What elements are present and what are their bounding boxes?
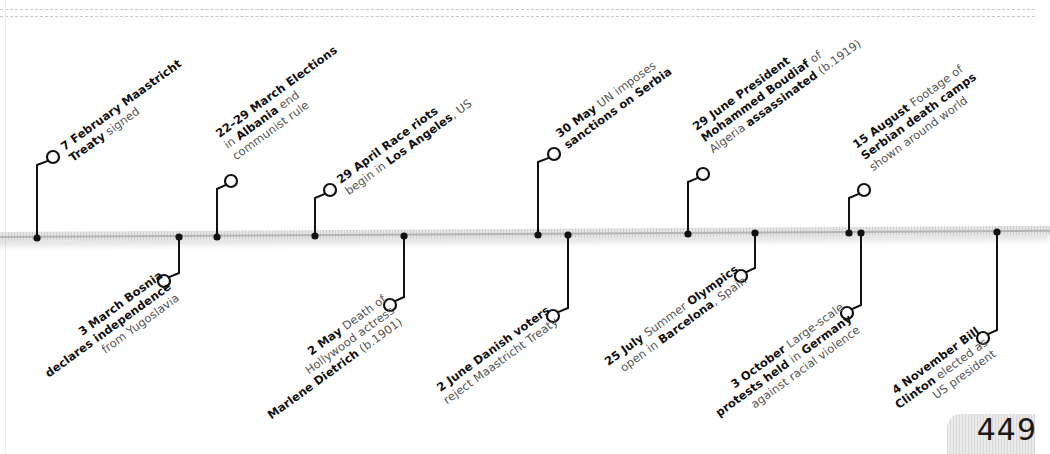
event-connector-may2 bbox=[384, 232, 408, 311]
event-marker-icon bbox=[858, 184, 870, 196]
event-connector-mar22 bbox=[213, 175, 237, 241]
timeline-dot bbox=[857, 229, 864, 236]
event-marker-icon bbox=[548, 148, 560, 160]
timeline-dot bbox=[845, 229, 852, 236]
event-connector-nov4 bbox=[977, 228, 1001, 344]
page-number: 449 bbox=[977, 412, 1037, 447]
timeline-dot bbox=[751, 229, 758, 236]
timeline-dot bbox=[534, 231, 541, 238]
event-connector-oct3 bbox=[841, 229, 865, 319]
timeline-dot bbox=[684, 230, 691, 237]
event-connector-feb7 bbox=[33, 151, 59, 242]
timeline-dot bbox=[213, 233, 220, 240]
event-connector-jun2 bbox=[547, 231, 572, 322]
timeline-dot bbox=[400, 232, 407, 239]
event-connector-jun29 bbox=[684, 168, 709, 238]
event-marker-icon bbox=[324, 184, 336, 196]
timeline-dot bbox=[33, 234, 40, 241]
event-connector-may30 bbox=[534, 148, 560, 239]
event-connector-apr29 bbox=[311, 184, 336, 240]
event-marker-icon bbox=[47, 151, 59, 163]
timeline-dot bbox=[311, 232, 318, 239]
timeline-dot bbox=[175, 233, 182, 240]
timeline-dot bbox=[564, 231, 571, 238]
event-marker-icon bbox=[225, 175, 237, 187]
event-marker-icon bbox=[697, 168, 709, 180]
timeline-dot bbox=[993, 228, 1000, 235]
event-connector-aug15 bbox=[845, 184, 870, 237]
